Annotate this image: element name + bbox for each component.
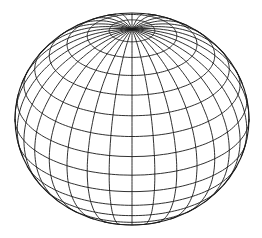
latitude-ring	[132, 70, 240, 136]
latitude-ring	[132, 119, 249, 175]
meridian-line	[132, 29, 249, 122]
latitude-ring	[24, 70, 132, 136]
meridian-line	[15, 29, 132, 122]
latitude-ring	[15, 119, 132, 175]
latitude-ring	[132, 207, 197, 222]
meridian-line	[17, 29, 132, 157]
meridian-line	[132, 29, 155, 224]
latitude-ring	[67, 207, 132, 222]
meridian-line	[132, 29, 247, 157]
wireframe-sphere-figure	[0, 0, 262, 238]
meridian-line	[67, 29, 132, 219]
sphere-mesh	[0, 0, 262, 238]
meridian-line	[132, 29, 197, 219]
meridian-line	[109, 29, 132, 224]
